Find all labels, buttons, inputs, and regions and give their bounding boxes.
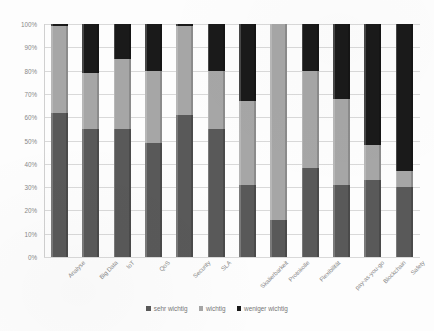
bar-series-group: [44, 24, 420, 257]
x-axis-tick-label: SLA: [220, 259, 233, 272]
bar-segment: [302, 24, 319, 71]
bar-segment: [396, 187, 413, 257]
x-axis-tick-label: QoS: [157, 259, 170, 272]
bar-column: [302, 24, 319, 257]
y-axis-tick-label: 100%: [21, 21, 37, 28]
bar-column: [145, 24, 162, 257]
bar-segment: [396, 24, 413, 171]
y-axis-tick-label: 50%: [24, 137, 37, 144]
bar-column: [239, 24, 256, 257]
bar-column: [82, 24, 99, 257]
y-axis-tick-label: 80%: [24, 67, 37, 74]
bar-column: [270, 24, 287, 257]
bar-segment: [239, 24, 256, 101]
y-axis-tick-label: 20%: [24, 207, 37, 214]
x-axis-tick-label: Safety: [409, 259, 426, 276]
bar-segment: [364, 24, 381, 145]
bar-segment: [176, 115, 193, 257]
y-axis-tick-label: 40%: [24, 160, 37, 167]
chart-container: 0%10%20%30%40%50%60%70%80%90%100% Analys…: [0, 0, 434, 331]
bar-segment: [396, 171, 413, 187]
chart-legend: sehr wichtigwichtigweniger wichtig: [0, 305, 434, 312]
bar-segment: [333, 185, 350, 257]
bar-segment: [208, 129, 225, 257]
bar-segment: [51, 26, 68, 112]
bar-segment: [208, 24, 225, 71]
bar-segment: [176, 24, 193, 26]
bar-column: [208, 24, 225, 257]
bar-segment: [145, 71, 162, 143]
y-axis-tick-label: 0%: [28, 254, 37, 261]
legend-item[interactable]: wichtig: [199, 305, 226, 312]
x-axis-labels: AnalyseBig DataIoTQoSSecuritySLASkalierb…: [44, 259, 420, 305]
bar-segment: [176, 26, 193, 115]
x-axis-tick-label: Protokolle: [287, 259, 311, 283]
bar-segment: [51, 113, 68, 257]
bar-segment: [82, 129, 99, 257]
x-axis-tick-label: Security: [191, 259, 211, 279]
x-axis-tick-label: IoT: [125, 259, 136, 270]
bar-segment: [270, 24, 287, 220]
bar-segment: [302, 71, 319, 169]
bar-column: [333, 24, 350, 257]
plot-area: [44, 24, 420, 257]
bar-segment: [364, 180, 381, 257]
bar-segment: [114, 59, 131, 129]
legend-item[interactable]: weniger wichtig: [237, 305, 288, 312]
y-axis-tick-label: 10%: [24, 230, 37, 237]
bar-segment: [145, 24, 162, 71]
bar-segment: [208, 71, 225, 129]
bar-segment: [145, 143, 162, 257]
legend-swatch-icon: [237, 306, 242, 311]
x-axis-tick-label: Blockchain: [381, 259, 406, 284]
y-axis-tick-label: 30%: [24, 184, 37, 191]
bar-segment: [51, 24, 68, 26]
bar-segment: [239, 101, 256, 185]
bar-segment: [302, 168, 319, 257]
legend-item[interactable]: sehr wichtig: [146, 305, 187, 312]
x-axis-tick-label: Analyse: [66, 259, 86, 279]
y-axis: 0%10%20%30%40%50%60%70%80%90%100%: [0, 24, 40, 257]
bar-column: [364, 24, 381, 257]
legend-swatch-icon: [199, 306, 204, 311]
bar-segment: [270, 220, 287, 257]
bar-segment: [333, 99, 350, 185]
bar-segment: [333, 24, 350, 99]
bar-segment: [114, 129, 131, 257]
bar-column: [114, 24, 131, 257]
legend-label: sehr wichtig: [154, 305, 188, 312]
legend-label: wichtig: [206, 305, 226, 312]
legend-label: weniger wichtig: [244, 305, 288, 312]
bar-segment: [82, 24, 99, 73]
bar-segment: [364, 145, 381, 180]
x-axis-tick-label: pay-as-you-go: [353, 259, 385, 291]
bar-segment: [82, 73, 99, 129]
y-axis-tick-label: 60%: [24, 114, 37, 121]
x-axis-tick-label: Big Data: [98, 259, 119, 280]
bar-segment: [114, 24, 131, 59]
y-axis-tick-label: 90%: [24, 44, 37, 51]
legend-swatch-icon: [146, 306, 151, 311]
gridline: [44, 257, 420, 258]
bar-column: [396, 24, 413, 257]
y-axis-tick-label: 70%: [24, 90, 37, 97]
x-axis-tick-label: Flexibilität: [318, 259, 342, 283]
bar-column: [51, 24, 68, 257]
bar-segment: [239, 185, 256, 257]
x-axis-tick-label: Skalierbarkeit: [258, 259, 289, 290]
bar-column: [176, 24, 193, 257]
